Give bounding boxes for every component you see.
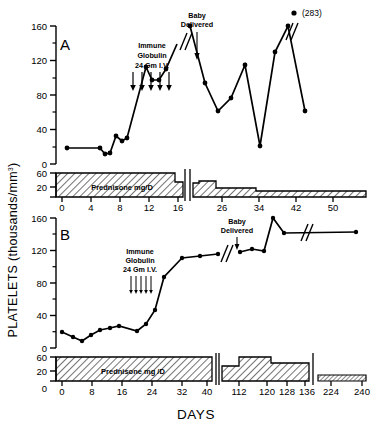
panel-b-xtick-16: 16 [117, 386, 128, 397]
panel-b-xtick-224: 224 [323, 386, 339, 397]
panel-a-ytick-120: 120 [31, 55, 47, 66]
panel-b-ig-arrows [129, 276, 153, 294]
panel-a-ig-line2: Globulin [137, 51, 166, 60]
panel-b: B 160 120 80 40 0 [31, 213, 370, 398]
panel-b-ytick-120: 120 [31, 245, 47, 256]
panel-b-xtick-8: 8 [89, 386, 94, 397]
panel-b-baby-delivered-annotation: Baby Delivered [221, 217, 253, 250]
panel-b-x-ticks: 0 8 16 24 32 40 112 120 128 136 224 240 [59, 381, 370, 397]
panel-b-data-points [60, 216, 358, 343]
panel-b-bar-ytick-60: 60 [36, 352, 47, 363]
x-axis-title: DAYS [177, 407, 215, 422]
panel-a-ig-line1: Immune [138, 41, 166, 50]
panel-a-x-axis-break [185, 169, 190, 201]
panel-b-series-seg2 [240, 218, 284, 252]
panel-a-y-ticks: 160 120 80 40 0 [31, 21, 56, 170]
panel-a-series-right [190, 26, 305, 146]
panel-a-baby-line1: Baby [188, 11, 206, 20]
panel-a-x-ticks: 0 4 8 12 16 26 34 42 50 [59, 197, 338, 213]
panel-b-ig-line1: Immune [126, 247, 154, 256]
panel-b-xtick-40: 40 [202, 386, 213, 397]
panel-a-xtick-8: 8 [117, 202, 122, 213]
panel-a-xtick-12: 12 [144, 202, 155, 213]
svg-text:PLATELETS (thousands/mm3): PLATELETS (thousands/mm3) [6, 163, 20, 338]
panel-a-ytick-160: 160 [31, 21, 47, 32]
panel-a-xtick-42: 42 [291, 202, 302, 213]
panel-a-ytick-40: 40 [36, 124, 47, 135]
panel-b-ig-line3: 24 Gm I.V. [123, 265, 157, 274]
panel-b-x-axis-break-1 [216, 353, 219, 385]
panel-b-baby-arrow [235, 237, 240, 250]
panel-b-xtick-32: 32 [177, 386, 188, 397]
panel-b-bar-ytick-0: 0 [42, 383, 47, 394]
panel-a-offscale-label: (283) [302, 8, 322, 18]
panel-b-bar-label: Prednisone mg /D [101, 367, 165, 376]
panel-a-xtick-26: 26 [217, 202, 228, 213]
panel-b-ytick-80: 80 [36, 278, 47, 289]
y-axis-title-close: ) [6, 163, 20, 167]
panel-b-xtick-128: 128 [279, 386, 295, 397]
panel-b-prednisone-bar: Prednisone mg /D [56, 357, 366, 381]
panel-a-ytick-80: 80 [36, 90, 47, 101]
panel-a-bar-label: Prednisone mg/D [91, 183, 153, 192]
panel-a-ig-arrows [130, 72, 172, 91]
panel-b-xtick-112: 112 [231, 386, 246, 397]
panel-b-ytick-40: 40 [36, 310, 47, 321]
panel-a-ig-line3: 24 Gm I.V. [135, 61, 169, 70]
panel-b-ig-line2: Globulin [125, 256, 154, 265]
figure-root: PLATELETS (thousands/mm3) A 160 120 80 4… [0, 0, 379, 428]
panel-b-xtick-136: 136 [299, 386, 315, 397]
panel-a-data-points [65, 24, 308, 157]
platelet-count-figure: PLATELETS (thousands/mm3) A 160 120 80 4… [0, 0, 379, 428]
panel-a-bar-ytick-20: 20 [36, 182, 47, 193]
panel-a-series-break [180, 33, 192, 50]
panel-a-baby-line2: Delivered [181, 20, 213, 29]
panel-a-bar-ytick-60: 60 [36, 168, 47, 179]
panel-b-series-seg3 [284, 232, 356, 233]
y-axis-title-text: PLATELETS (thousands/mm [6, 171, 20, 337]
panel-b-bar-ytick-20: 20 [36, 366, 47, 377]
panel-a-xtick-4: 4 [88, 202, 93, 213]
panel-b-xtick-24: 24 [147, 386, 158, 397]
panel-b-ytick-160: 160 [31, 213, 47, 224]
panel-a-prednisone-bar: Prednisone mg/D [56, 173, 366, 197]
panel-a-immune-globulin-annotation: Immune Globulin 24 Gm I.V. [130, 41, 172, 91]
panel-a-xtick-34: 34 [254, 202, 265, 213]
panel-b-baby-line2: Delivered [221, 226, 253, 235]
panel-b-xtick-120: 120 [259, 386, 275, 397]
panel-b-letter: B [60, 226, 70, 243]
panel-b-y-ticks: 160 120 80 40 0 [31, 213, 56, 354]
panel-b-xtick-0: 0 [59, 386, 64, 397]
panel-a-offscale-point: (283) [291, 8, 322, 18]
panel-b-baby-line1: Baby [228, 217, 246, 226]
panel-b-series-break-1 [221, 245, 233, 262]
panel-a-xtick-50: 50 [328, 202, 339, 213]
panel-b-immune-globulin-annotation: Immune Globulin 24 Gm I.V. [123, 247, 157, 294]
panel-a: A 160 120 80 40 0 [31, 8, 366, 213]
panel-a-xtick-0: 0 [59, 202, 64, 213]
panel-b-bar-axis: 60 20 0 [36, 352, 56, 395]
panel-b-xtick-240: 240 [354, 386, 370, 397]
panel-a-bar-axis: 60 20 [36, 168, 56, 198]
panel-a-xtick-16: 16 [173, 202, 184, 213]
panel-a-letter: A [60, 36, 70, 53]
y-axis-title: PLATELETS (thousands/mm3) [6, 163, 20, 338]
